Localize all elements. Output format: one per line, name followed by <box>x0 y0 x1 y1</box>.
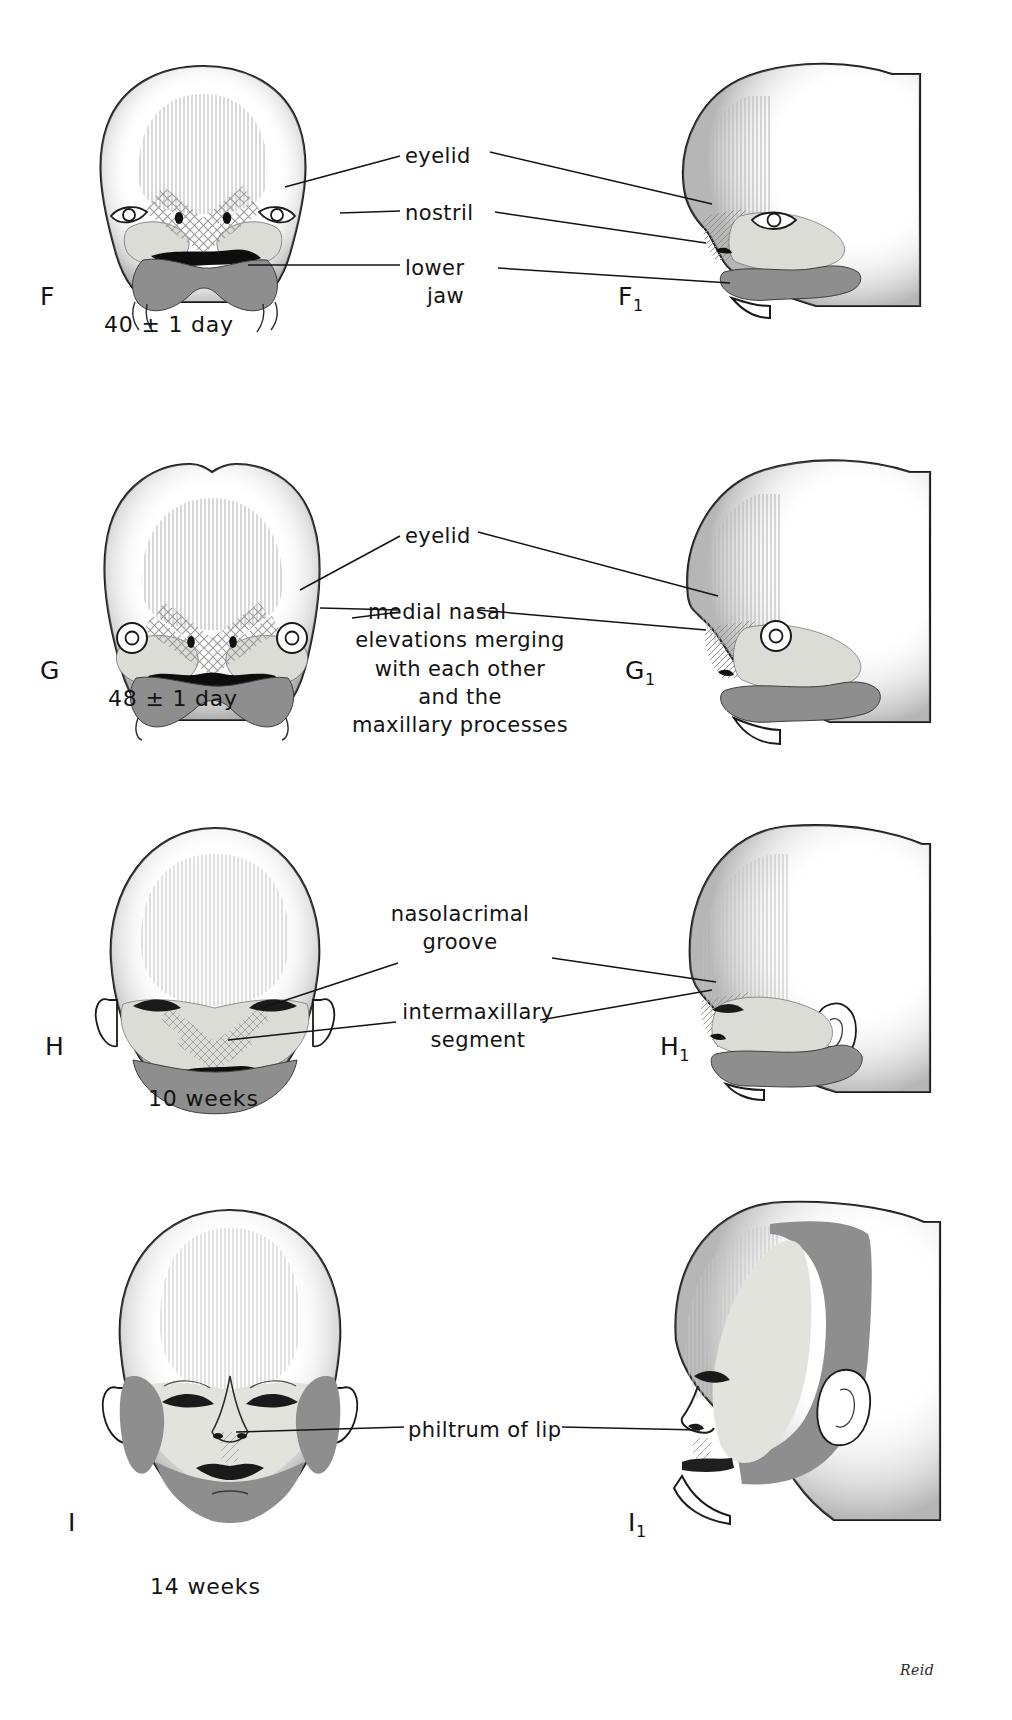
lips-profile <box>682 1458 734 1472</box>
label-mne-line3: with each other <box>330 655 590 683</box>
nostril-right <box>223 212 231 224</box>
label-lower-jaw-line1: lower <box>405 254 464 282</box>
panel-H: nasolacrimal groove intermaxillary segme… <box>0 800 1012 1160</box>
label-eyelid: eyelid <box>405 142 471 170</box>
figure-letter-F: F <box>40 282 55 311</box>
figure-letter-H1: H1 <box>660 1032 690 1065</box>
eye-left <box>117 623 147 653</box>
figure-letter-I: I <box>68 1508 76 1537</box>
label-nasolacrimal-groove: nasolacrimal groove <box>360 900 560 957</box>
philtrum-hatch <box>220 1432 240 1462</box>
figure-G-profile <box>630 446 960 746</box>
figure-letter-H: H <box>45 1032 64 1061</box>
label-philtrum-of-lip: philtrum of lip <box>408 1416 562 1444</box>
panel-I: philtrum of lip I I1 14 weeks Reid <box>0 1180 1012 1720</box>
panel-F: eyelid nostril lower jaw F F1 40 ± 1 day <box>0 0 1012 390</box>
ear-left <box>96 999 117 1046</box>
label-mne-line1: medial nasal <box>330 598 590 626</box>
figure-F-frontal <box>55 50 355 310</box>
ear-right <box>313 999 334 1046</box>
figure-letter-F1: F1 <box>618 282 644 315</box>
label-ims-line2: segment <box>378 1026 578 1054</box>
frontal-prominence-hatch <box>160 1228 300 1392</box>
caption-I: 14 weeks <box>150 1574 261 1599</box>
label-lower-jaw: lower jaw <box>405 254 464 311</box>
label-medial-nasal-elevations: medial nasal elevations merging with eac… <box>330 598 590 740</box>
label-mne-line4: and the <box>330 683 590 711</box>
nostril-left <box>175 212 183 224</box>
chin-neck-profile <box>674 1476 730 1524</box>
label-mne-line2: elevations merging <box>330 626 590 654</box>
label-intermaxillary-segment: intermaxillary segment <box>378 998 578 1055</box>
caption-H: 10 weeks <box>148 1086 259 1111</box>
label-nlg-line1: nasolacrimal <box>360 900 560 928</box>
nostril-left <box>213 1433 223 1439</box>
label-ims-line1: intermaxillary <box>378 998 578 1026</box>
figure-F-profile <box>620 48 950 318</box>
artist-signature: Reid <box>900 1662 934 1678</box>
label-lower-jaw-line2: jaw <box>405 282 464 310</box>
philtrum-hatch-profile <box>692 1438 712 1458</box>
figure-I-frontal <box>80 1200 380 1530</box>
panel-G: eyelid medial nasal elevations merging w… <box>0 400 1012 790</box>
nostril-right <box>237 1433 247 1439</box>
label-mne-line5: maxillary processes <box>330 711 590 739</box>
label-nostril: nostril <box>405 199 473 227</box>
embryology-plate: eyelid nostril lower jaw F F1 40 ± 1 day <box>0 0 1012 1720</box>
figure-letter-I1: I1 <box>628 1508 647 1541</box>
figure-I-profile <box>620 1190 960 1530</box>
figure-letter-G: G <box>40 656 60 685</box>
nostril-right <box>229 636 237 648</box>
lower-jaw-profile <box>721 682 881 722</box>
frontal-prominence-hatch <box>141 854 289 1006</box>
label-nlg-line2: groove <box>360 928 560 956</box>
figure-H-frontal <box>65 810 365 1100</box>
caption-F: 40 ± 1 day <box>104 312 234 337</box>
eye-profile <box>761 621 791 651</box>
label-eyelid-G: eyelid <box>405 522 471 550</box>
nostril-left <box>187 636 195 648</box>
figure-letter-G1: G1 <box>625 656 656 689</box>
caption-G: 48 ± 1 day <box>108 686 238 711</box>
eye-right <box>277 623 307 653</box>
